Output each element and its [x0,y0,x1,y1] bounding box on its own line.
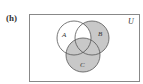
venn-diagram: (h) U A B C [0,0,143,84]
subfigure-label: (h) [6,13,17,23]
set-b-label: B [98,30,103,38]
set-c-label: C [80,61,85,69]
set-a-label: A [61,31,67,39]
